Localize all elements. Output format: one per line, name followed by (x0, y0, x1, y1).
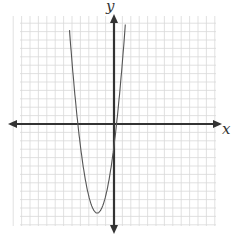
y-axis-down-arrow-icon (110, 225, 118, 234)
y-axis-up-arrow-icon (110, 14, 118, 23)
x-axis-left-arrow-icon (8, 120, 17, 128)
x-axis-right-arrow-icon (213, 120, 222, 128)
coordinate-plane (0, 0, 233, 237)
x-axis-label: x (222, 120, 230, 138)
y-axis-label: y (106, 0, 114, 15)
